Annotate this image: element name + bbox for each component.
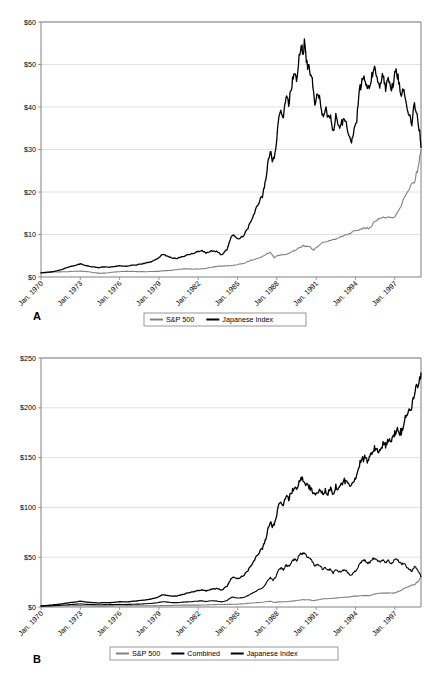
x-axis-tick-label: Jan. 1988	[252, 609, 281, 638]
x-axis-tick-label: Jan. 1979	[134, 279, 163, 308]
legend-label-japanese-index: Japanese Index	[222, 315, 273, 324]
x-axis-tick-label: Jan. 1976	[95, 279, 124, 308]
chart-legend: S&P 500Japanese Index	[144, 313, 306, 326]
x-axis-tick-label: Jan. 1982	[173, 279, 202, 308]
y-axis-tick-label: $60	[24, 18, 36, 27]
figure-container: $0$10$20$30$40$50$60Jan. 1970Jan. 1973Ja…	[0, 0, 440, 681]
series-line-japanese-index	[41, 39, 421, 273]
chart-panel-b: $0$50$100$150$200$250Jan. 1970Jan. 1973J…	[0, 340, 440, 681]
x-axis-tick-label: Jan. 1994	[331, 609, 360, 638]
x-axis-tick-label: Jan. 1976	[95, 609, 124, 638]
series-line-s-p-500	[41, 150, 421, 274]
x-axis-tick-label: Jan. 1988	[252, 279, 281, 308]
y-axis-tick-label: $30	[24, 145, 36, 154]
panel-letter-b: B	[33, 653, 41, 665]
x-axis-tick-label: Jan. 1982	[173, 609, 202, 638]
x-axis-tick-label: Jan. 1994	[331, 279, 360, 308]
y-axis-tick-label: $250	[20, 354, 36, 363]
chart-a-svg: $0$10$20$30$40$50$60Jan. 1970Jan. 1973Ja…	[0, 0, 440, 340]
y-axis-tick-label: $50	[24, 553, 36, 562]
y-axis-tick-label: $200	[20, 403, 36, 412]
legend-label-combined: Combined	[187, 649, 220, 658]
x-axis-tick-label: Jan. 1970	[16, 279, 45, 308]
y-axis-tick-label: $0	[28, 603, 36, 612]
x-axis-tick-label: Jan. 1970	[16, 609, 45, 638]
y-axis-tick-label: $10	[24, 230, 36, 239]
x-axis-tick-label: Jan. 1991	[291, 609, 320, 638]
x-axis-tick-label: Jan. 1973	[56, 279, 85, 308]
legend-label-s-p-500: S&P 500	[166, 315, 194, 324]
chart-panel-a: $0$10$20$30$40$50$60Jan. 1970Jan. 1973Ja…	[0, 0, 440, 340]
panel-letter-a: A	[33, 310, 41, 322]
legend-label-japanese-index: Japanese Index	[247, 649, 298, 658]
x-axis-tick-label: Jan. 1997	[370, 609, 399, 638]
x-axis-tick-label: Jan. 1997	[370, 279, 399, 308]
x-axis-tick-label: Jan. 1985	[213, 279, 242, 308]
series-line-s-p-500	[41, 577, 421, 606]
legend-label-s-p-500: S&P 500	[132, 649, 160, 658]
chart-legend: S&P 500CombinedJapanese Index	[110, 647, 338, 660]
x-axis-tick-label: Jan. 1973	[56, 609, 85, 638]
x-axis-tick-label: Jan. 1985	[213, 609, 242, 638]
y-axis-tick-label: $100	[20, 503, 36, 512]
y-axis-tick-label: $150	[20, 453, 36, 462]
x-axis-tick-label: Jan. 1979	[134, 609, 163, 638]
x-axis-tick-label: Jan. 1991	[291, 279, 320, 308]
y-axis-tick-label: $20	[24, 188, 36, 197]
y-axis-tick-label: $40	[24, 103, 36, 112]
chart-b-svg: $0$50$100$150$200$250Jan. 1970Jan. 1973J…	[0, 340, 440, 681]
y-axis-tick-label: $0	[28, 273, 36, 282]
y-axis-tick-label: $50	[24, 60, 36, 69]
